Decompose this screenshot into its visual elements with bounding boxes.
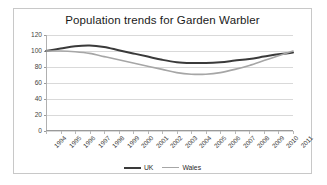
x-axis-tick-mark (264, 131, 265, 134)
x-axis-tick-label: 2007 (242, 135, 257, 150)
x-axis-tick-label: 2000 (140, 135, 155, 150)
legend-item-uk[interactable]: UK (124, 164, 153, 171)
x-axis-tick-mark (162, 131, 163, 134)
plot-area: 020406080100120 199419951996199719981999… (46, 35, 293, 131)
x-axis-tick-label: 2005 (213, 135, 228, 150)
y-axis-tick-label: 80 (35, 64, 42, 71)
series-lines (46, 35, 293, 131)
x-axis-tick-mark (104, 131, 105, 134)
x-axis-tick-label: 1998 (111, 135, 126, 150)
x-axis-tick-label: 2003 (184, 135, 199, 150)
x-axis-tick-label: 1997 (97, 135, 112, 150)
x-axis-tick-mark (293, 131, 294, 134)
x-axis-tick-label: 2006 (228, 135, 243, 150)
x-axis-tick-label: 2004 (198, 135, 213, 150)
legend-label: UK (144, 164, 153, 171)
x-axis-tick-mark (46, 131, 47, 134)
x-axis-tick-mark (61, 131, 62, 134)
legend-swatch-icon (124, 167, 141, 169)
x-axis-tick-label: 2002 (169, 135, 184, 150)
gridline (46, 131, 293, 132)
x-axis-tick-mark (278, 131, 279, 134)
y-axis-tick-label: 40 (35, 96, 42, 103)
series-line-uk (46, 45, 293, 63)
chart-title: Population trends for Garden Warbler (14, 14, 311, 26)
x-axis-tick-mark (220, 131, 221, 134)
legend-swatch-icon (162, 167, 179, 168)
x-axis-tick-mark (206, 131, 207, 134)
series-line-wales (46, 51, 293, 74)
legend-item-wales[interactable]: Wales (162, 164, 201, 171)
y-axis-tick-label: 60 (35, 80, 42, 87)
x-axis-tick-label: 1994 (53, 135, 68, 150)
x-axis-tick-label: 2001 (155, 135, 170, 150)
x-axis-tick-label: 2009 (271, 135, 286, 150)
x-axis-tick-mark (235, 131, 236, 134)
x-axis-tick-label: 1999 (126, 135, 141, 150)
x-axis-tick-mark (133, 131, 134, 134)
x-axis-tick-mark (177, 131, 178, 134)
y-axis-tick-label: 120 (31, 32, 42, 39)
legend-label: Wales (182, 164, 201, 171)
x-axis-tick-label: 2011 (300, 135, 314, 149)
x-axis-tick-label: 1996 (82, 135, 97, 150)
x-axis-tick-mark (119, 131, 120, 134)
x-axis-tick-mark (90, 131, 91, 134)
x-axis-tick-label: 2010 (286, 135, 301, 150)
x-axis-tick-mark (75, 131, 76, 134)
y-axis-tick-label: 20 (35, 112, 42, 119)
chart-legend: UKWales (14, 164, 311, 171)
chart-container: Population trends for Garden Warbler 020… (13, 8, 312, 174)
x-axis-tick-mark (148, 131, 149, 134)
y-axis-tick-label: 100 (31, 48, 42, 55)
x-axis-tick-label: 2008 (257, 135, 272, 150)
x-axis-tick-mark (249, 131, 250, 134)
y-axis-tick-label: 0 (38, 128, 42, 135)
x-axis-tick-mark (191, 131, 192, 134)
x-axis-tick-label: 1995 (68, 135, 83, 150)
